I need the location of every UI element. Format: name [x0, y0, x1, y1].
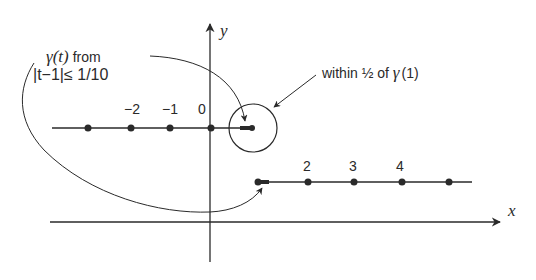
lower-dot: [305, 179, 312, 186]
lower-dot: [351, 179, 358, 186]
tick-label: 0: [198, 101, 206, 117]
upper-segment: [52, 125, 255, 132]
lower-dot: [446, 179, 453, 186]
tick-label: 3: [349, 158, 357, 174]
gamma-label-line2: |t−1|≤ 1/10: [33, 66, 108, 83]
diagram-canvas: x y −2 −1 0 2 3 4 γ(t) from |t−1|≤ 1/10: [0, 0, 536, 280]
tick-label: −2: [124, 101, 140, 117]
upper-dot: [85, 125, 92, 132]
gamma-symbol: γ(t): [46, 47, 69, 66]
y-axis-label: y: [218, 21, 228, 40]
upper-dot: [128, 125, 135, 132]
x-axis-label: x: [507, 201, 516, 220]
tick-label: 2: [303, 158, 311, 174]
tick-label: 4: [396, 158, 404, 174]
upper-dot: [167, 125, 174, 132]
upper-dot: [208, 125, 215, 132]
lower-endpoint: [255, 179, 262, 186]
tick-label: −1: [162, 101, 178, 117]
from-text: from: [69, 49, 101, 65]
gamma-label-line1: γ(t) from: [46, 47, 101, 66]
upper-endpoint: [249, 125, 255, 131]
lower-dot: [399, 179, 406, 186]
circle-label-arg: (1): [402, 65, 419, 81]
circle-label-gamma: γ: [393, 63, 401, 82]
circle-label-text: within ½ of: [321, 65, 393, 81]
lower-segment: [255, 179, 473, 186]
arrow-to-lower-segment: [22, 63, 262, 212]
circle-label: within ½ of γ(1): [321, 63, 419, 82]
arrow-to-circle: [274, 75, 316, 107]
